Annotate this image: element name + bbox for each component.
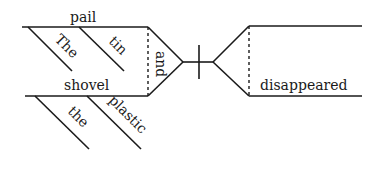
word-and: and (153, 51, 169, 77)
fork-line-bottom-right (213, 62, 249, 96)
word-shovel: shovel (64, 77, 110, 93)
word-pail: pail (70, 9, 97, 25)
word-disappeared: disappeared (260, 77, 348, 93)
word-the-bottom: the (65, 103, 93, 131)
fork-line-top-right (213, 26, 249, 62)
sentence-diagram: pail The tin shovel the plastic and disa… (0, 0, 386, 187)
word-tin: tin (106, 33, 131, 58)
word-plastic: plastic (106, 92, 151, 137)
